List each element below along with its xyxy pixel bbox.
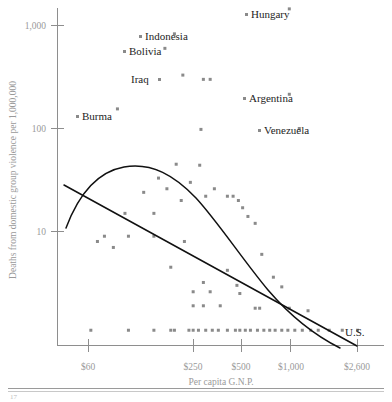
scatter-point <box>211 329 214 332</box>
scatter-point <box>165 187 168 190</box>
scatter-point <box>181 74 184 77</box>
annotation-dot-bolivia <box>123 50 126 53</box>
axes-group <box>58 8 385 346</box>
footer-divider <box>8 388 384 389</box>
scatter-point <box>192 290 195 293</box>
x-tick-label-250: $250 <box>184 362 203 372</box>
annotation-label-us: U.S. <box>345 327 365 338</box>
annotation-dot-venezuela <box>258 129 261 132</box>
scatter-point <box>262 329 265 332</box>
x-tick-label-60: $60 <box>81 362 96 372</box>
scatter-point <box>189 181 192 184</box>
scatter-point <box>256 329 259 332</box>
annotation-dot-hungary <box>245 13 248 16</box>
linear-fit-curve <box>64 185 357 346</box>
scatter-point <box>202 78 205 81</box>
scatter-point <box>246 215 249 218</box>
scatter-point <box>317 329 320 332</box>
y-tick-label-10: 10 <box>37 227 47 237</box>
scatter-point <box>249 329 252 332</box>
y-tick-label-100: 100 <box>32 124 47 134</box>
scatter-point <box>89 329 92 332</box>
scatter-point <box>202 304 205 307</box>
annotation-label-iraq: Iraq <box>131 74 149 85</box>
scatter-point <box>268 329 271 332</box>
scatter-point <box>235 284 238 287</box>
chart-figure: 1,000 100 10 $60 $250 $500 $1,000 $2,600… <box>0 0 392 402</box>
annotation-label-bolivia: Bolivia <box>129 46 161 57</box>
scatter-point <box>280 285 283 288</box>
scatter-point <box>209 78 212 81</box>
scatter-point <box>213 187 216 190</box>
x-tick-label-2600: $2,600 <box>344 362 370 372</box>
scatter-point <box>307 309 310 312</box>
scatter-point <box>169 266 172 269</box>
scatter-point <box>209 290 212 293</box>
scatter-point <box>199 128 202 131</box>
scatter-point <box>204 329 207 332</box>
scatter-point <box>197 329 200 332</box>
scatter-point <box>112 246 115 249</box>
scatter-point <box>234 329 237 332</box>
scatter-point <box>123 212 126 215</box>
scatter-point <box>219 304 222 307</box>
scatter-point <box>260 253 263 256</box>
scatter-point <box>173 329 176 332</box>
scatter-point <box>226 195 229 198</box>
scatter-point <box>183 240 186 243</box>
scatter-point <box>238 329 241 332</box>
annotation-dot-iraq <box>158 78 161 81</box>
scatter-point <box>280 329 283 332</box>
annotation-dot-argentina <box>243 97 246 100</box>
x-axis-title: Per capita G.N.P. <box>188 377 253 387</box>
annotation-dot-burma <box>76 115 79 118</box>
scatter-point <box>103 235 106 238</box>
annotation-label-indonesia: Indonesia <box>145 31 188 42</box>
annotation-label-burma: Burma <box>82 111 112 122</box>
annotation-label-venezuela: Venezuela <box>264 125 309 136</box>
y-tick-label-1000: 1,000 <box>25 21 47 31</box>
scatter-point <box>202 281 205 284</box>
scatter-point <box>274 329 277 332</box>
annotation-label-hungary: Hungary <box>251 9 290 20</box>
scatter-point <box>226 269 229 272</box>
scatter-point <box>286 329 289 332</box>
y-axis-title: Deaths from domestic group violence per … <box>8 81 18 279</box>
scatter-point <box>301 329 304 332</box>
x-tick-label-500: $500 <box>232 362 251 372</box>
annotation-dot-indonesia <box>139 35 142 38</box>
scatter-plot-svg: 1,000 100 10 $60 $250 $500 $1,000 $2,600… <box>0 0 392 402</box>
scatter-point <box>157 177 160 180</box>
scatter-point <box>142 191 145 194</box>
scatter-point <box>204 195 207 198</box>
scatter-point <box>169 329 172 332</box>
scatter-point <box>254 307 257 310</box>
scatter-point <box>237 199 240 202</box>
scatter-point <box>192 329 195 332</box>
scatter-point <box>152 329 155 332</box>
scatter-point <box>272 276 275 279</box>
quadratic-fit-curve <box>66 166 340 348</box>
scatter-point <box>293 329 296 332</box>
scatter-point <box>152 212 155 215</box>
scatter-point <box>163 47 166 50</box>
scatter-point <box>175 163 178 166</box>
scatter-point <box>341 329 344 332</box>
scatter-point <box>258 307 261 310</box>
scatter-point <box>226 329 229 332</box>
x-tick-label-1000: $1,000 <box>278 362 304 372</box>
scatter-point <box>96 240 99 243</box>
footer-divider-secondary <box>8 391 384 392</box>
scatter-point <box>187 329 190 332</box>
footer-mark: 17 <box>10 393 17 401</box>
scatter-point <box>127 329 130 332</box>
scatter-point <box>198 164 201 167</box>
scatter-point <box>127 235 130 238</box>
scatter-point <box>180 199 183 202</box>
scatter-point <box>192 304 195 307</box>
scatter-point <box>116 107 119 110</box>
scatter-point <box>244 329 247 332</box>
scatter-point <box>217 329 220 332</box>
annotation-label-argentina: Argentina <box>249 93 293 104</box>
scatter-point <box>238 292 241 295</box>
